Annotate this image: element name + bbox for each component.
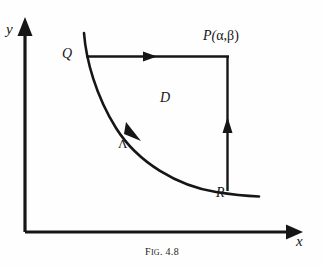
figure-caption-number: . 4.8 [160, 246, 179, 257]
curve-label-lambda: Λ [118, 137, 127, 150]
point-label-p-close: ) [234, 28, 239, 43]
segment-rp-group [223, 56, 233, 191]
figure-container: y x Q P(α,β) D R Λ FIG. 4.8 [0, 0, 324, 268]
point-label-q: Q [62, 47, 72, 61]
segment-qp-group [86, 52, 229, 62]
point-label-p: P(α,β) [203, 29, 239, 43]
figure-caption-ig: IG [151, 248, 160, 257]
region-label-d: D [160, 91, 170, 105]
segment-rp-arrowhead [223, 117, 233, 133]
segment-qp-arrowhead [143, 52, 157, 62]
point-label-r: R [216, 186, 225, 200]
figure-caption: FIG. 4.8 [0, 246, 324, 257]
y-axis-arrowhead [18, 17, 33, 36]
axes-group [18, 17, 304, 240]
point-label-p-letter: P( [203, 28, 216, 43]
y-axis-label: y [6, 22, 13, 37]
diagram-canvas [0, 0, 324, 268]
point-label-p-alpha: α [216, 28, 223, 43]
